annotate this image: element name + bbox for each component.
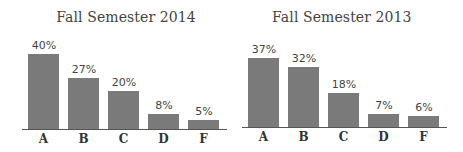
bar-value-label: 6% — [399, 101, 449, 114]
category-label: C — [328, 130, 359, 144]
category-label: D — [368, 130, 399, 144]
bar-d — [368, 114, 399, 127]
bar-a — [248, 58, 279, 127]
category-label: B — [288, 130, 319, 144]
x-axis-baseline — [242, 127, 447, 128]
bar-b — [288, 67, 319, 127]
bar-value-label: 32% — [279, 52, 329, 65]
bar-f — [408, 116, 439, 127]
bar-c — [328, 93, 359, 127]
category-label: F — [408, 130, 439, 144]
category-label: A — [248, 130, 279, 144]
chart-title: Fall Semester 2013 — [272, 9, 412, 25]
bar-value-label: 18% — [319, 78, 369, 91]
chart-fall-2013: Fall Semester 2013 37%A32%B18%C7%D6%F — [0, 0, 463, 152]
